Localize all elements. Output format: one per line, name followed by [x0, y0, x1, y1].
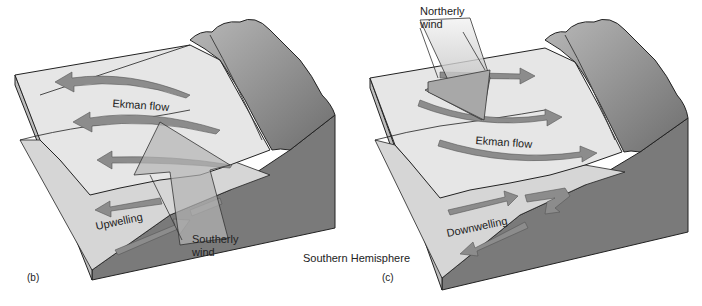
northerly-wind-label-line2: wind — [420, 18, 443, 30]
panel-c — [370, 18, 688, 290]
northerly-wind-label-line1: Northerly — [420, 5, 465, 17]
panel-label-b: (b) — [27, 272, 39, 283]
panel-label-c: (c) — [382, 272, 394, 283]
panel-b — [15, 19, 335, 280]
hemisphere-label: Southern Hemisphere — [303, 252, 410, 264]
southerly-wind-label-line1: Southerly — [192, 233, 238, 245]
southerly-wind-label-line2: wind — [192, 246, 215, 258]
